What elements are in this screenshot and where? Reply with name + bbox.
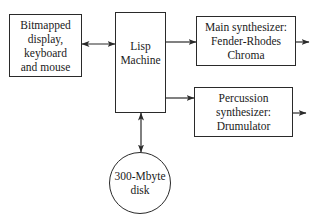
input-devices-label-1: Bitmapped — [20, 18, 70, 32]
main-synth-label-3: Chroma — [205, 48, 287, 62]
lisp-machine-box: Lisp Machine — [115, 12, 166, 113]
input-devices-label-3: keyboard — [20, 46, 70, 60]
percussion-label-2: synthesizer: — [216, 105, 271, 119]
percussion-label-1: Percussion — [216, 91, 271, 105]
input-devices-label-2: display, — [20, 32, 70, 46]
lisp-machine-label-2: Machine — [120, 53, 160, 67]
main-synth-label-1: Main synthesizer: — [205, 20, 287, 34]
percussion-label-3: Drumulator — [216, 119, 271, 133]
disk-circle: 300-Mbyte disk — [109, 152, 171, 214]
main-synthesizer-box: Main synthesizer: Fender-Rhodes Chroma — [196, 16, 296, 66]
system-diagram: Bitmapped display, keyboard and mouse Li… — [0, 0, 323, 220]
disk-label-1: 300-Mbyte — [114, 169, 165, 183]
lisp-machine-label-1: Lisp — [120, 39, 160, 53]
input-devices-box: Bitmapped display, keyboard and mouse — [9, 14, 82, 77]
percussion-synthesizer-box: Percussion synthesizer: Drumulator — [194, 87, 293, 137]
main-synth-label-2: Fender-Rhodes — [205, 34, 287, 48]
disk-label-2: disk — [114, 183, 165, 197]
input-devices-label-4: and mouse — [20, 60, 70, 74]
